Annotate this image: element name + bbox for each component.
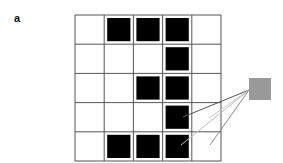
filled-pixel [166,18,189,41]
connection-line [181,90,249,145]
output-neuron [249,78,271,100]
filled-pixel [166,135,189,158]
filled-pixel [107,135,130,158]
filled-pixel [136,76,159,99]
filled-pixel [166,106,189,129]
filled-pixel [136,135,159,158]
filled-pixel [136,18,159,41]
filled-pixel [107,18,130,41]
filled-pixel [166,47,189,70]
filled-pixel [166,76,189,99]
pixel-grid-diagram [0,0,283,163]
